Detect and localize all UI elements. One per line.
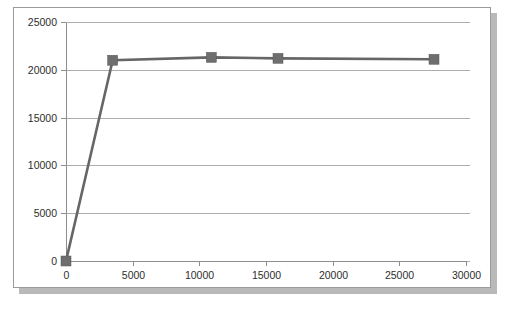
data-point-marker <box>206 52 216 62</box>
y-tick-label: 15000 <box>28 112 57 124</box>
data-point-marker <box>273 53 283 63</box>
x-tick-label: 30000 <box>452 269 481 281</box>
data-point-marker <box>429 54 439 64</box>
y-tick-label: 5000 <box>34 207 58 219</box>
data-point-marker <box>61 256 71 266</box>
chart-figure: 0500010000150002000025000 05000100001500… <box>0 0 515 311</box>
y-tick-label: 25000 <box>28 16 57 28</box>
x-axis-tick-labels: 050001000015000200002500030000 <box>64 269 482 281</box>
data-point-marker <box>108 55 118 65</box>
x-tick-label: 25000 <box>385 269 414 281</box>
x-tick-label: 15000 <box>252 269 281 281</box>
x-tick-label: 10000 <box>185 269 214 281</box>
y-axis-ticks <box>61 23 66 262</box>
data-point-markers <box>61 52 439 266</box>
x-tick-label: 0 <box>64 269 70 281</box>
series-line-series-1 <box>66 57 434 261</box>
plot-area: 0500010000150002000025000 05000100001500… <box>0 0 515 311</box>
y-axis-tick-labels: 0500010000150002000025000 <box>28 16 57 267</box>
x-tick-label: 20000 <box>319 269 348 281</box>
data-series-group <box>66 57 434 261</box>
line-chart-canvas: 0500010000150002000025000 05000100001500… <box>0 0 515 311</box>
x-tick-label: 5000 <box>122 269 146 281</box>
y-tick-label: 10000 <box>28 159 57 171</box>
y-tick-label: 20000 <box>28 64 57 76</box>
y-tick-label: 0 <box>51 255 57 267</box>
